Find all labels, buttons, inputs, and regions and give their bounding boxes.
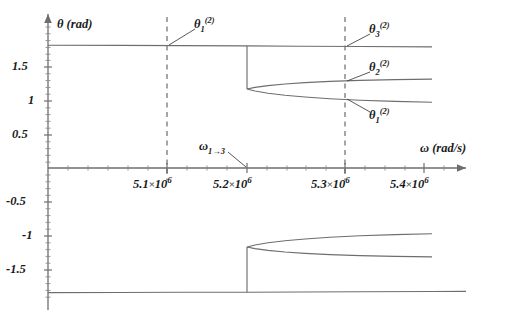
annotation-theta2-right: θ2(2) <box>369 59 390 76</box>
bifurcation-diagram-figure: θ (rad) ω (rad/s) 1.5 1 0.5 -0.5 -1 -1.5… <box>0 0 510 318</box>
annotation-theta3-right: θ3(2) <box>369 21 390 38</box>
x-tick-label-53: 5.3×106 <box>311 176 350 191</box>
annotation-omega-transition: ω1→3 <box>199 140 225 155</box>
superscript-2: (2) <box>380 20 390 30</box>
curve-theta2-split-upper <box>247 79 432 89</box>
superscript-2: (2) <box>380 58 390 68</box>
exponent-6: 6 <box>167 175 172 185</box>
x-axis-arrowhead <box>457 164 466 172</box>
curve-group <box>48 45 466 292</box>
dashed-guides <box>167 17 345 180</box>
subscript-1-to-3: 1→3 <box>208 146 225 156</box>
superscript-2: (2) <box>380 106 390 116</box>
exponent-6: 6 <box>247 175 252 185</box>
x-tick-label-52: 5.2×106 <box>213 176 252 191</box>
exponent-6: 6 <box>424 175 429 185</box>
superscript-2: (2) <box>205 15 215 25</box>
x-tick-label-51: 5.1×106 <box>133 176 172 191</box>
leader-theta1-left <box>169 29 195 45</box>
y-tick-label-1p5: 1.5 <box>12 60 28 73</box>
y-tick-label-0p5: 0.5 <box>12 128 28 141</box>
y-tick-label-n1p5: -1.5 <box>6 263 26 276</box>
y-tick-label-n0p5: -0.5 <box>6 195 26 208</box>
leader-theta3-right <box>347 34 370 46</box>
plot-canvas <box>0 0 510 318</box>
axis-group <box>44 14 466 310</box>
y-axis-arrowhead <box>44 14 52 23</box>
curve-theta1-split-lower <box>247 89 432 102</box>
leader-omega-transition <box>228 152 246 167</box>
x-axis-title: ω (rad/s) <box>420 142 466 155</box>
leader-theta2-right <box>347 72 370 81</box>
curve-theta3-lower <box>48 291 466 292</box>
subscript-1: 1 <box>376 115 380 125</box>
curve-theta3-upper <box>48 45 432 47</box>
curve-theta1-split-negative <box>247 247 432 257</box>
annotation-theta1-left: θ1(2) <box>194 16 215 33</box>
annotation-theta1-right: θ1(2) <box>369 107 390 124</box>
y-axis-title: θ (rad) <box>57 18 92 31</box>
x-tick-label-54: 5.4×106 <box>390 176 429 191</box>
subscript-1: 1 <box>201 24 205 34</box>
subscript-3: 3 <box>376 29 380 39</box>
exponent-6: 6 <box>345 175 350 185</box>
curve-theta2-split-negative <box>247 234 432 247</box>
y-tick-label-1: 1 <box>28 94 34 107</box>
subscript-2: 2 <box>376 67 380 77</box>
y-tick-label-n1: -1 <box>22 229 32 242</box>
